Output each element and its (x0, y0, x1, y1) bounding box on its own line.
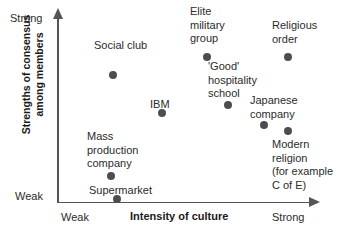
x-axis-tick-low: Weak (61, 211, 89, 223)
data-point-dot (284, 53, 292, 61)
data-point-label: Social club (94, 39, 147, 53)
data-point-dot (109, 71, 117, 79)
data-point-label: Japanese company (250, 94, 298, 121)
data-point-label: Mass production company (87, 130, 138, 171)
data-point-dot (158, 109, 166, 117)
data-point-dot (107, 172, 115, 180)
data-point-dot (284, 127, 292, 135)
culture-consensus-scatter-chart: Strong Weak Weak Strong Strengths of con… (0, 0, 343, 240)
data-point-dot (113, 195, 121, 203)
data-point-dot (224, 101, 232, 109)
x-axis-line (57, 202, 312, 204)
y-axis-arrow-icon (53, 8, 63, 19)
data-point-label: Elite military group (190, 5, 225, 46)
x-axis-tick-high: Strong (272, 211, 304, 223)
data-point-label: Religious order (272, 19, 317, 46)
data-point-label: Modern religion (for example C of E) (272, 138, 333, 192)
data-point-dot (260, 121, 268, 129)
y-axis-title: Strengths of consensus among members (20, 10, 45, 140)
data-point-label: Supermarket (89, 184, 152, 198)
x-axis-title: Intensity of culture (130, 210, 228, 223)
y-axis-tick-low: Weak (15, 190, 43, 202)
y-axis-line (57, 18, 59, 203)
x-axis-arrow-icon (309, 197, 320, 207)
